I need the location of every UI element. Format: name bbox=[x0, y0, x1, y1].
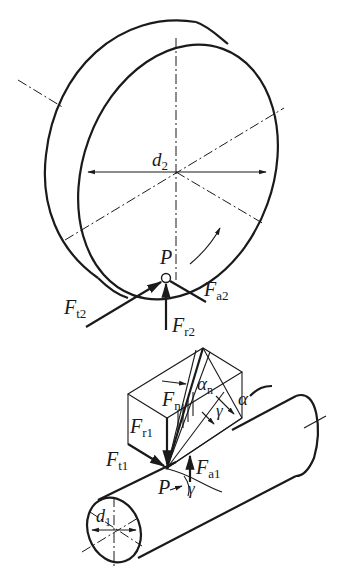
alpha-n-label: αn bbox=[197, 373, 213, 397]
rotation-arrow-icon bbox=[190, 228, 220, 264]
alpha-label: α bbox=[238, 388, 249, 409]
wheel-radial-line bbox=[176, 172, 264, 224]
ft2-label: Ft2 bbox=[63, 296, 86, 321]
fa1-label: Fa1 bbox=[195, 456, 221, 481]
wheel-back-edge bbox=[45, 20, 196, 278]
worm-axis-right bbox=[304, 416, 326, 428]
worm-shaft: d1 Fr1 Ft1 bbox=[78, 348, 326, 570]
gamma-upper-label: γ bbox=[216, 401, 224, 420]
alpha-n-arc bbox=[162, 381, 186, 384]
pitch-point-marker bbox=[162, 274, 171, 283]
wheel-pitch-point-label: P bbox=[159, 246, 172, 268]
worm-wheel: d2 P Ft2 Fa2 Fr2 bbox=[18, 16, 312, 339]
gamma-lower-arc bbox=[170, 486, 182, 490]
fn-label: Fn bbox=[161, 388, 181, 413]
fa2-label: Fa2 bbox=[203, 278, 229, 303]
fr2-label: Fr2 bbox=[171, 314, 195, 339]
wheel-rim-top bbox=[196, 22, 228, 44]
ft2-force-line bbox=[86, 282, 161, 327]
fa2-force-line bbox=[170, 281, 206, 302]
worm-pitch-point-label: P bbox=[157, 476, 170, 498]
wheel-rim-bottom bbox=[98, 278, 128, 298]
d1-label: d1 bbox=[96, 506, 111, 529]
wheel-axis-line bbox=[65, 108, 284, 240]
worm-gear-force-diagram: d2 P Ft2 Fa2 Fr2 bbox=[0, 0, 344, 588]
gamma-lower-label: γ bbox=[188, 479, 196, 498]
fr1-label: Fr1 bbox=[129, 415, 153, 440]
alpha-leader bbox=[250, 386, 272, 396]
ft1-force-line bbox=[128, 444, 164, 466]
ft1-label: Ft1 bbox=[105, 448, 128, 473]
wheel-axis-left bbox=[18, 80, 64, 108]
worm-right-cap bbox=[296, 395, 318, 476]
d2-label: d2 bbox=[152, 149, 168, 173]
worm-pitch-point-marker bbox=[165, 466, 169, 470]
